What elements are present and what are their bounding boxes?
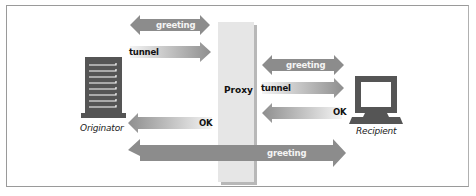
diagram-canvas [0,0,476,196]
left-ok-label: OK [199,118,212,128]
right-greeting-label: greeting [286,60,325,70]
right-tunnel-label: tunnel [261,83,291,93]
originator-label: Originator [80,123,123,133]
recipient-label: Recipient [356,126,396,136]
server-tower-icon [81,57,126,118]
end-to-end-greeting-label: greeting [267,148,306,158]
left-tunnel-label: tunnel [129,47,159,57]
left-greeting-label: greeting [156,20,195,30]
arrow-right-ok [262,103,342,123]
proxy-label: Proxy [224,85,253,95]
monitor-icon [349,76,403,124]
right-ok-label: OK [333,107,346,117]
